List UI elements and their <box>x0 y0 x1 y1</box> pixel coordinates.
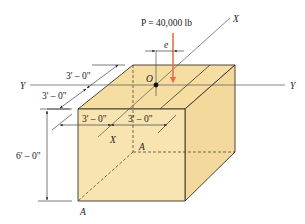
origin-point <box>154 83 159 88</box>
eccentricity-label: e <box>164 40 168 50</box>
width-dim-label-right: 3' – 0" <box>128 114 153 124</box>
depth-dim-label-front: 3' – 0" <box>42 91 67 101</box>
origin-label: O <box>146 74 153 84</box>
section-label-a-back: A <box>138 142 145 152</box>
section-label-a-front: A <box>79 207 86 217</box>
y-axis-label-left: Y <box>20 81 27 91</box>
load-label: P = 40,000 lb <box>141 18 192 28</box>
x-axis-label-bottom: X <box>109 135 117 145</box>
y-axis-label-right: Y <box>290 81 297 91</box>
height-dim-label: 6' – 0" <box>16 151 41 161</box>
width-dim-label-left: 3' – 0" <box>82 114 107 124</box>
x-axis-label-top: X <box>232 14 240 24</box>
pedestal-load-diagram: P = 40,000 lb e O X X Y Y A A 3' – 0" 3'… <box>0 0 305 224</box>
depth-dim-label-back: 3' – 0" <box>66 71 91 81</box>
height-dimension <box>38 109 72 201</box>
